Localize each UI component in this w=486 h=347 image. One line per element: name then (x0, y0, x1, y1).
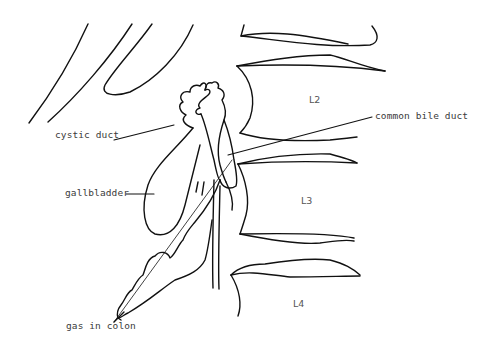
leader-lines (114, 117, 372, 322)
label-cystic-duct: cystic duct (55, 130, 119, 140)
gas-in-colon-leader (114, 160, 232, 322)
gallbladder-shape (144, 128, 200, 235)
ribs (29, 24, 193, 123)
anatomy-diagram: cystic duct common bile duct gallbladder… (0, 0, 486, 347)
label-gas-in-colon: gas in colon (66, 321, 136, 331)
common-bile-duct-shape (213, 180, 233, 289)
cystic-duct-leader (114, 125, 174, 140)
diagram-drawing (0, 0, 486, 347)
vertebra-label-l2: L2 (309, 95, 320, 105)
cystic-duct-shape (180, 82, 237, 195)
vertebra-label-l3: L3 (301, 196, 312, 206)
label-common-bile-duct: common bile duct (375, 111, 468, 121)
label-gallbladder: gallbladder (65, 188, 129, 198)
vertebra-label-l4: L4 (293, 299, 304, 309)
spine (231, 25, 385, 316)
